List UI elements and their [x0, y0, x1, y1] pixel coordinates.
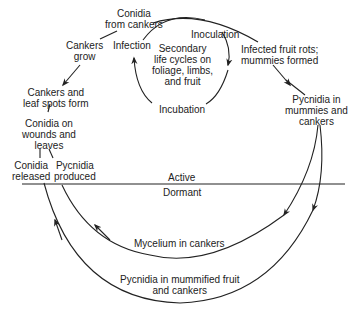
- label-pycnidia-mummies: Pycnidia in mummies and cankers: [285, 94, 348, 127]
- label-conidia-released: Conidia released: [12, 160, 50, 182]
- label-infection: Infection: [113, 40, 151, 51]
- label-inoculation: Inoculation: [191, 29, 239, 40]
- label-dormant: Dormant: [163, 187, 201, 198]
- label-incubation: Incubation: [159, 104, 205, 115]
- text: Infected fruit rots;: [241, 44, 318, 55]
- label-infected-fruit: Infected fruit rots; mummies formed: [241, 44, 318, 66]
- text: released: [12, 171, 50, 182]
- label-cankers-grow: Cankers grow: [66, 40, 103, 62]
- label-conidia-wounds: Conidia on wounds and leaves: [22, 118, 76, 151]
- label-pycnidia-mummified: Pycnidia in mummified fruit and cankers: [120, 274, 239, 296]
- arrow-fruit-to-pycnidia: [273, 65, 290, 85]
- label-active: Active: [168, 172, 195, 183]
- label-conidia-from-cankers: Conidia from cankers: [105, 8, 163, 30]
- label-secondary-cycles: Secondary life cycles on foliage, limbs,…: [152, 43, 213, 87]
- text: Conidia on: [22, 118, 76, 129]
- text: mummies formed: [241, 55, 318, 66]
- text: Conidia: [12, 160, 50, 171]
- text: Inoculation: [191, 29, 239, 40]
- label-mycelium: Mycelium in cankers: [134, 238, 225, 249]
- text: Cankers: [66, 40, 103, 51]
- text: life cycles on: [152, 54, 213, 65]
- text: and cankers: [120, 285, 239, 296]
- text: and fruit: [152, 76, 213, 87]
- text: Conidia: [105, 8, 163, 19]
- text: Pycnidia in mummified fruit: [120, 274, 239, 285]
- text: Dormant: [163, 187, 201, 198]
- text: from cankers: [105, 19, 163, 30]
- text: Pycnidia in: [285, 94, 348, 105]
- text: Pycnidia: [54, 160, 96, 171]
- arrow-cankers-grow: [63, 65, 80, 85]
- text: produced: [54, 171, 96, 182]
- label-pycnidia-produced: Pycnidia produced: [54, 160, 96, 182]
- text: Mycelium in cankers: [134, 238, 225, 249]
- text: mummies and: [285, 105, 348, 116]
- label-cankers-leaf-spots: Cankers and leaf spots form: [23, 87, 89, 109]
- text: leaves: [22, 140, 76, 151]
- text: Active: [168, 172, 195, 183]
- text: cankers: [285, 116, 348, 127]
- text: Incubation: [159, 104, 205, 115]
- text: foliage, limbs,: [152, 65, 213, 76]
- circle-arc-bottom-left: [134, 58, 152, 103]
- text: Infection: [113, 40, 151, 51]
- text: Cankers and: [23, 87, 89, 98]
- text: Secondary: [152, 43, 213, 54]
- text: wounds and: [22, 129, 76, 140]
- text: leaf spots form: [23, 98, 89, 109]
- text: grow: [66, 51, 103, 62]
